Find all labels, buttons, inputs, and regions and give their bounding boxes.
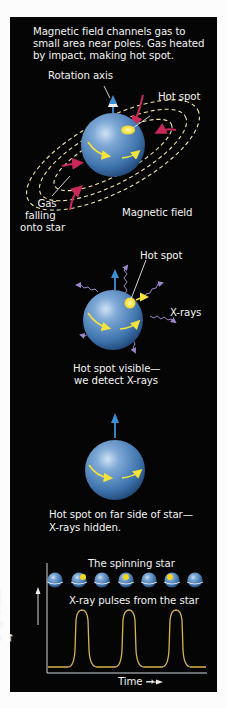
caption-visible-1: Hot spot visible— — [73, 363, 160, 376]
label-hot-spot-1: Hot spot — [158, 91, 200, 104]
rotation-axis-arrow-2 — [111, 269, 119, 290]
intro-line-2: small area near poles. Gas heated — [33, 38, 204, 51]
hot-spot-2 — [125, 298, 136, 309]
label-xrays: X-rays — [170, 307, 201, 320]
hot-spot-pointer-2 — [131, 260, 146, 299]
caption-visible-2: we detect X-rays — [74, 375, 158, 388]
graph-curve-label: X-ray pulses from the star — [69, 595, 199, 608]
star-2 — [83, 290, 143, 350]
intro-line-3: by impact, making hot spot. — [33, 50, 174, 63]
graph-title: The spinning star — [88, 558, 175, 571]
y-axis-arrow — [36, 587, 41, 625]
label-magnetic-field: Magnetic field — [122, 207, 192, 220]
graph-xlabel: Time → — [118, 676, 154, 689]
label-hot-spot-2: Hot spot — [140, 250, 182, 263]
rotation-axis-arrow-3 — [111, 413, 119, 438]
pulse-curve — [48, 610, 206, 667]
caption-hidden-1: Hot spot on far side of star— — [49, 509, 193, 522]
ylabel-text: Brightness → — [0, 589, 16, 642]
caption-hidden-2: X-rays hidden. — [49, 522, 121, 535]
xlabel-text: Time → — [118, 676, 154, 687]
label-gas-1: Gas — [32, 198, 62, 211]
label-gas-3: onto star — [20, 222, 65, 235]
intro-line-1: Magnetic field channels gas to — [33, 26, 185, 39]
label-gas-2: falling — [25, 210, 56, 223]
graph-ylabel: Brightness → — [0, 582, 17, 642]
label-rotation-axis: Rotation axis — [48, 70, 113, 83]
mini-stars — [47, 573, 203, 588]
hot-spot-1 — [121, 126, 135, 135]
